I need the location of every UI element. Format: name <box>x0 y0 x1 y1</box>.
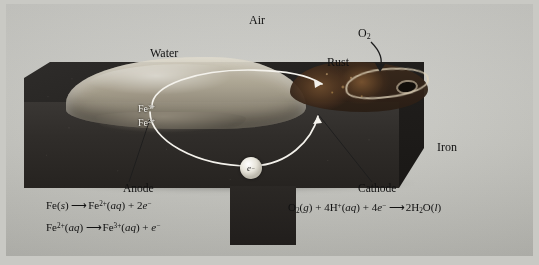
label-water: Water <box>150 47 178 59</box>
cathode-leader-line <box>318 114 372 182</box>
equation-anode-oxidation-2: Fe2+(aq) ⟶ Fe3+(aq) + e− <box>46 221 160 234</box>
oxygen-arrowhead <box>375 63 385 72</box>
label-air: Air <box>249 14 265 26</box>
eq-reactant: Fe2+(aq) <box>46 221 86 233</box>
eq-product: Fe3+(aq) + e− <box>103 221 161 233</box>
label-rust: Rust <box>327 56 349 68</box>
equation-cathode-reduction: O2(g) + 4H+(aq) + 4e− ⟶ 2H2O(l) <box>288 201 441 215</box>
reaction-arrow: ⟶ <box>389 201 403 214</box>
electron-marker: e− <box>240 157 262 179</box>
eq-reactant: Fe(s) <box>46 199 71 211</box>
reaction-arrow: ⟶ <box>71 199 85 212</box>
label-iron: Iron <box>437 141 457 153</box>
eq-product: 2H2O(l) <box>406 201 441 213</box>
equation-anode-oxidation-1: Fe(s) ⟶ Fe2+(aq) + 2e− <box>46 199 151 212</box>
corrosion-diagram-figure: Air Water Rust O2 Iron Anode Cathode Fe3… <box>0 0 539 265</box>
label-oxygen: O2 <box>358 27 371 41</box>
anode-leader-line <box>129 119 150 182</box>
reaction-arrow: ⟶ <box>86 221 100 234</box>
eq-reactant: O2(g) + 4H+(aq) + 4e− <box>288 201 389 213</box>
eq-product: Fe2+(aq) + 2e− <box>88 199 151 211</box>
label-cathode: Cathode <box>358 183 396 195</box>
label-anode: Anode <box>123 183 154 195</box>
electron-flow-arc <box>150 70 322 166</box>
label-iron-ii-ion: Fe2+ <box>138 118 155 128</box>
label-iron-iii-ion: Fe3+ <box>138 104 155 114</box>
